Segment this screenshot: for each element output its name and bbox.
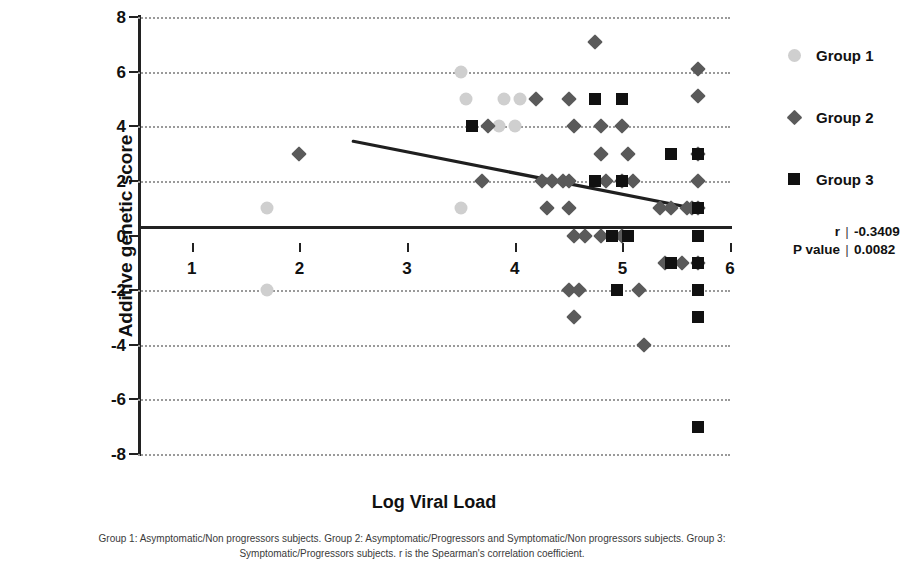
data-point [692,421,704,433]
data-point [692,230,704,242]
y-tick-label: -6 [111,391,126,408]
figure-caption: Group 1: Asymptomatic/Non progressors su… [62,532,762,561]
data-point [509,121,520,132]
data-point [515,93,526,104]
x-axis-title: Log Viral Load [138,492,730,513]
statistics-box: r | -0.3409 P value | 0.0082 [784,224,900,260]
legend-label: Group 1 [816,47,874,64]
y-tick [129,125,138,127]
y-tick-label: 6 [117,63,126,80]
legend: Group 1Group 2Group 3 [786,44,911,230]
stat-separator: | [840,224,854,239]
y-tick [129,71,138,73]
data-point [606,230,618,242]
regression-line [138,17,730,454]
p-label: P value [784,242,840,257]
data-point [262,203,273,214]
data-point [622,230,634,242]
data-point [665,148,677,160]
y-tick-label: -8 [111,446,126,463]
y-axis-title: Additive genetic score [115,134,137,337]
data-point [692,202,704,214]
legend-item-3[interactable]: Group 3 [786,168,911,190]
data-point [455,66,466,77]
scatter-plot-figure: -8-6-4-202468 123456 Additive genetic sc… [0,0,918,564]
y-tick [129,344,138,346]
p-value: 0.0082 [854,242,895,257]
stat-row-p: P value | 0.0082 [784,242,900,260]
legend-item-1[interactable]: Group 1 [786,44,911,66]
legend-label: Group 2 [816,109,874,126]
data-point [461,93,472,104]
r-label: r [784,224,840,239]
data-point [455,203,466,214]
legend-item-2[interactable]: Group 2 [786,106,911,128]
plot-area: -8-6-4-202468 123456 Additive genetic sc… [138,17,730,454]
data-point [611,284,623,296]
data-point [692,284,704,296]
data-point [589,175,601,187]
y-tick [129,453,138,455]
x-tick [730,243,732,252]
gridline [138,454,730,456]
y-tick [129,16,138,18]
data-point [466,120,478,132]
data-point [616,175,628,187]
y-tick-label: 4 [117,118,126,135]
legend-label: Group 3 [816,171,874,188]
data-point [262,285,273,296]
diamond-marker-icon [786,109,802,125]
square-marker-icon [786,171,802,187]
r-value: -0.3409 [854,224,900,239]
stat-row-r: r | -0.3409 [784,224,900,242]
data-point [692,257,704,269]
stat-separator: | [840,242,854,257]
data-point [498,93,509,104]
data-point [692,311,704,323]
data-point [589,93,601,105]
data-point [692,148,704,160]
y-tick [129,398,138,400]
data-point [616,93,628,105]
circle-marker-icon [786,47,802,63]
y-tick-label: 8 [117,9,126,26]
data-point [665,257,677,269]
y-tick-label: -4 [111,336,126,353]
